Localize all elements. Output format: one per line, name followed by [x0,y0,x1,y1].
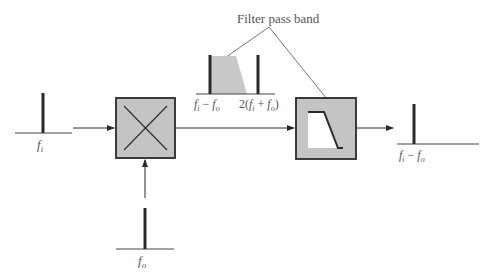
filter-passband-shape [210,56,247,94]
lo-frequency-label: fo [138,253,147,270]
input-frequency-label: fi [37,137,44,154]
mixer-block [116,98,175,158]
leader-line-to-passband [222,27,269,60]
output-spectrum: fi − fo [397,104,479,164]
local-oscillator-spectrum: fo [116,208,174,270]
output-frequency-label: fi − fo [399,148,425,164]
leader-line-to-filter [269,27,331,104]
diagram-canvas: Filter pass band fi fo fi − fo 2(fi + fo… [0,0,492,276]
filter-pass-band-label: Filter pass band [237,11,320,26]
bandpass-filter-block [296,98,356,159]
sum-frequency-label: 2(fi + fo) [239,97,279,113]
difference-frequency-label: fi − fo [194,97,220,113]
mixer-output-spectrum: fi − fo 2(fi + fo) [194,55,279,113]
input-spectrum: fi [15,93,72,154]
